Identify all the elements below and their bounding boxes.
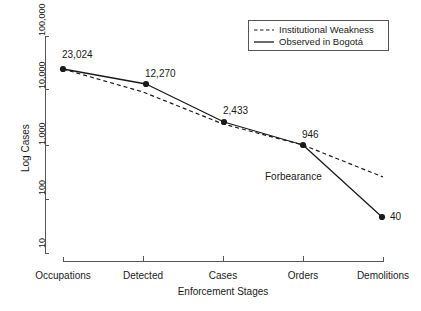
y-tick-label-100000: 100,000 bbox=[38, 3, 47, 36]
x-axis-title: Enforcement Stages bbox=[173, 287, 273, 297]
forbearance-annotation: Forbearance bbox=[265, 172, 322, 182]
y-axis-title: Log Cases bbox=[21, 124, 31, 172]
data-point-orders bbox=[300, 142, 306, 148]
data-point-demolitions bbox=[379, 214, 385, 220]
x-tick-label-orders: Orders bbox=[273, 271, 333, 281]
x-tick-label-demolitions: Demolitions bbox=[351, 271, 415, 281]
x-tick-label-occupations: Occupations bbox=[33, 271, 93, 281]
x-axis bbox=[63, 256, 383, 261]
data-point-markers bbox=[60, 66, 385, 220]
data-point-cases bbox=[221, 119, 227, 125]
data-label-detected: 12,270 bbox=[145, 69, 176, 79]
y-tick-label-10: 10 bbox=[38, 238, 47, 248]
data-point-occupations bbox=[60, 66, 66, 72]
data-label-demolitions: 40 bbox=[390, 212, 401, 222]
data-label-occupations: 23,024 bbox=[62, 50, 93, 60]
x-tick-label-cases: Cases bbox=[193, 271, 253, 281]
chart-figure: 100,000 10,000 1,000 100 10 Log Cases Oc… bbox=[0, 0, 421, 311]
y-tick-label-100: 100 bbox=[38, 180, 47, 195]
legend-label-observed-bogota: Observed in Bogotá bbox=[279, 37, 363, 47]
series-observed-bogota-line bbox=[63, 69, 382, 217]
y-tick-label-1000: 1,000 bbox=[38, 122, 47, 145]
data-label-orders: 946 bbox=[302, 130, 319, 140]
legend-label-institutional-weakness: Institutional Weakness bbox=[279, 25, 374, 35]
x-tick-label-detected: Detected bbox=[113, 271, 173, 281]
data-point-detected bbox=[143, 81, 149, 87]
y-tick-label-10000: 10,000 bbox=[38, 61, 47, 89]
data-label-cases: 2,433 bbox=[223, 106, 248, 116]
